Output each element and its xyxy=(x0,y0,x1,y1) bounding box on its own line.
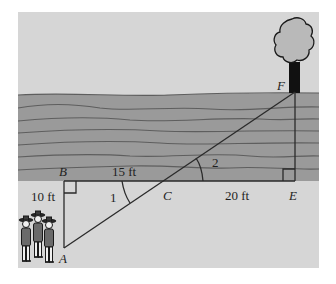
label-angle-1: 1 xyxy=(110,190,117,205)
label-point-F: F xyxy=(276,78,286,93)
scouts-icon xyxy=(19,211,56,262)
label-point-C: C xyxy=(163,188,172,203)
label-point-E: E xyxy=(288,188,297,203)
label-point-A: A xyxy=(58,251,67,266)
label-CE-length: 20 ft xyxy=(225,188,250,203)
label-BC-length: 15 ft xyxy=(112,164,137,179)
label-angle-2: 2 xyxy=(212,155,219,170)
label-AB-length: 10 ft xyxy=(31,189,56,204)
similar-triangles-diagram: F B 15 ft 2 10 ft 1 C 20 ft E A xyxy=(0,0,336,284)
label-point-B: B xyxy=(59,164,67,179)
